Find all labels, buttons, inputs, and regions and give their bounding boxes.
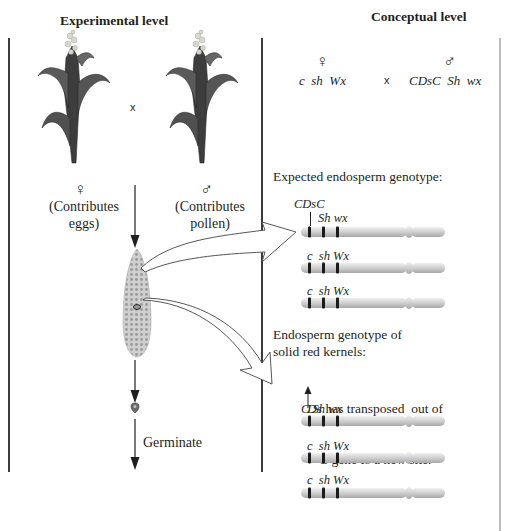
solid-red-genotype-title: Endosperm genotype of solid red kernels: [273,326,402,360]
chromosome-label: Sh wx [318,212,348,225]
cdsc-label: CDsC [294,198,325,211]
chromosome-solid-red-1 [300,414,446,428]
chromosome-expected-3 [300,296,446,310]
solid-red-title-line2: solid red kernels: [273,343,402,360]
conceptual-cross-symbol: x [384,73,390,88]
chromosome-solid-red-2 [300,451,446,465]
expected-genotype-title: Expected endosperm genotype: [273,169,442,184]
chromosome-expected-2 [300,261,446,275]
female-parent-genotype: c sh Wx [299,73,346,88]
cdsc-pointer-line [310,212,311,226]
male-parent-genotype: CDsC Sh wx [409,73,481,88]
solid-red-title-line1: Endosperm genotype of [273,326,402,343]
conceptual-female-symbol: ♀ [316,53,329,70]
chromosome-solid-red-3 [300,486,446,500]
chromosome-expected-1 [300,225,446,239]
conceptual-male-symbol: ♂ [443,53,456,70]
